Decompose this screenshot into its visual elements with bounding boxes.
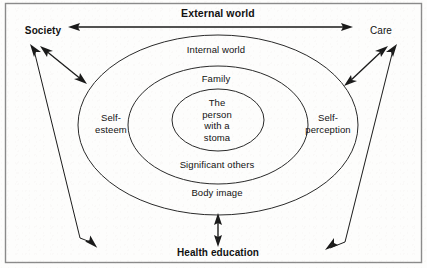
self-perception-label: Self- perception [305,112,350,135]
body-image-label: Body image [191,188,242,198]
health-education-care-arrow [325,44,397,250]
self-esteem-label: Self- esteem [95,112,127,135]
body-image-health-education-double-arrow [214,213,222,247]
society-label: Society [25,26,61,37]
significant-others-label: Significant others [180,160,255,170]
society-ellipse-double-arrow [40,46,87,84]
external-world-label: External world [181,8,255,19]
internal-world-label: Internal world [187,45,245,55]
person-with-stoma-label: The person with a stoma [202,97,232,143]
diagram-canvas: External world Society Care Internal wor… [0,0,427,268]
care-ellipse-double-arrow [344,46,388,86]
health-education-society-arrow [30,44,99,248]
care-label: Care [370,26,392,37]
health-education-label: Health education [177,248,259,259]
family-label: Family [202,74,231,84]
external-world-double-arrow [68,23,353,31]
